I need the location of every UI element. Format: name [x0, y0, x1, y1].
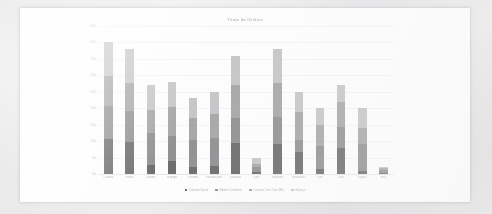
bar-segment[interactable]: [125, 111, 134, 143]
stacked-bar[interactable]: [210, 92, 219, 174]
bar-segment[interactable]: [147, 110, 156, 133]
bar-slot[interactable]: [204, 26, 225, 174]
x-axis-category-labels: CaldeiraPáteraLunaresRodrigoRicardoRicar…: [98, 176, 394, 185]
bar-segment[interactable]: [147, 85, 156, 110]
bar-segment[interactable]: [210, 114, 219, 138]
bar-segment[interactable]: [168, 107, 177, 137]
stacked-bar[interactable]: [147, 85, 156, 174]
legend-item[interactable]: Balanço: [291, 188, 306, 192]
bar-segment[interactable]: [104, 139, 113, 174]
y-axis-tick-label: 40,0: [90, 40, 96, 44]
bar-segment[interactable]: [337, 127, 346, 148]
bar-slot[interactable]: [373, 26, 394, 174]
bar-segment[interactable]: [295, 112, 304, 141]
bar-segment[interactable]: [231, 85, 240, 119]
bar-segment[interactable]: [168, 82, 177, 107]
x-axis-category-label: Lobo: [246, 176, 267, 185]
bar-segment[interactable]: [337, 102, 346, 127]
bar-segment[interactable]: [379, 173, 388, 174]
chart-legend: Contrato SocialMédias ContábeisContrato …: [20, 188, 470, 192]
bar-slot[interactable]: [140, 26, 161, 174]
bar-series-layer: [98, 26, 394, 174]
bar-segment[interactable]: [125, 49, 134, 83]
bar-segment[interactable]: [231, 118, 240, 143]
x-axis-category-label: Edwards: [267, 176, 288, 185]
bar-segment[interactable]: [104, 106, 113, 140]
y-axis-tick-label: 20,0: [90, 106, 96, 110]
stacked-bar[interactable]: [337, 85, 346, 174]
y-axis-tick-label: 45,0: [90, 24, 96, 28]
bar-segment[interactable]: [189, 140, 198, 166]
bar-segment[interactable]: [273, 83, 282, 117]
stacked-bar[interactable]: [316, 108, 325, 174]
stacked-bar[interactable]: [104, 42, 113, 174]
bar-segment[interactable]: [316, 108, 325, 125]
y-axis-tick-label: 0,0: [92, 172, 96, 176]
bar-slot[interactable]: [288, 26, 309, 174]
stacked-bar[interactable]: [252, 158, 261, 174]
stacked-bar[interactable]: [125, 49, 134, 174]
bar-segment[interactable]: [358, 128, 367, 144]
bar-slot[interactable]: [352, 26, 373, 174]
bar-segment[interactable]: [316, 169, 325, 174]
bar-segment[interactable]: [189, 118, 198, 140]
legend-item[interactable]: Contrato Com Caso Mês: [249, 188, 284, 192]
bar-slot[interactable]: [331, 26, 352, 174]
chart-card: Título do Gráfico 0,05,010,015,020,025,0…: [20, 8, 470, 202]
bar-segment[interactable]: [147, 133, 156, 165]
bar-segment[interactable]: [295, 140, 304, 152]
legend-label: Contrato Social: [189, 188, 208, 192]
bar-slot[interactable]: [98, 26, 119, 174]
bar-slot[interactable]: [119, 26, 140, 174]
bar-slot[interactable]: [183, 26, 204, 174]
bar-segment[interactable]: [316, 125, 325, 146]
bar-segment[interactable]: [273, 117, 282, 145]
stacked-bar[interactable]: [295, 92, 304, 174]
bar-slot[interactable]: [161, 26, 182, 174]
bar-segment[interactable]: [337, 85, 346, 101]
bar-slot[interactable]: [309, 26, 330, 174]
bar-segment[interactable]: [189, 98, 198, 118]
bar-segment[interactable]: [189, 167, 198, 174]
bar-segment[interactable]: [125, 142, 134, 174]
x-axis-category-label: Lunares: [140, 176, 161, 185]
bar-segment[interactable]: [125, 83, 134, 111]
legend-item[interactable]: Médias Contábeis: [215, 188, 242, 192]
bar-segment[interactable]: [273, 144, 282, 174]
bar-segment[interactable]: [337, 148, 346, 174]
stacked-bar[interactable]: [168, 82, 177, 174]
x-axis-category-label: Emmanuel: [288, 176, 309, 185]
x-axis-category-label: Ricardo: [183, 176, 204, 185]
gridline: [98, 174, 394, 175]
stacked-bar[interactable]: [379, 167, 388, 174]
bar-segment[interactable]: [358, 171, 367, 174]
stacked-bar[interactable]: [273, 49, 282, 174]
bar-segment[interactable]: [168, 136, 177, 161]
bar-segment[interactable]: [316, 146, 325, 168]
chart-title: Título do Gráfico: [20, 17, 470, 22]
bar-slot[interactable]: [246, 26, 267, 174]
bar-segment[interactable]: [295, 152, 304, 174]
bar-segment[interactable]: [231, 56, 240, 85]
stacked-bar[interactable]: [231, 56, 240, 174]
bar-slot[interactable]: [267, 26, 288, 174]
bar-segment[interactable]: [273, 49, 282, 83]
stacked-bar[interactable]: [189, 98, 198, 174]
legend-item[interactable]: Contrato Social: [185, 188, 209, 192]
y-axis-tick-label: 10,0: [90, 139, 96, 143]
bar-segment[interactable]: [358, 144, 367, 170]
bar-segment[interactable]: [168, 161, 177, 174]
legend-swatch-icon: [291, 189, 294, 192]
bar-segment[interactable]: [104, 42, 113, 76]
stacked-bar[interactable]: [358, 108, 367, 174]
bar-segment[interactable]: [295, 92, 304, 112]
bar-segment[interactable]: [358, 108, 367, 128]
bar-segment[interactable]: [231, 143, 240, 174]
bar-segment[interactable]: [252, 172, 261, 174]
bar-segment[interactable]: [147, 165, 156, 174]
bar-slot[interactable]: [225, 26, 246, 174]
bar-segment[interactable]: [210, 138, 219, 166]
bar-segment[interactable]: [104, 76, 113, 106]
bar-segment[interactable]: [210, 92, 219, 114]
bar-segment[interactable]: [210, 166, 219, 174]
